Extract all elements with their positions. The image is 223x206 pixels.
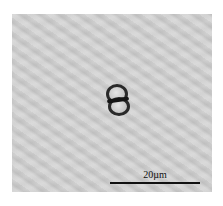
micrograph-image: 20µm [12, 14, 212, 192]
scale-bar-label: 20µm [110, 170, 200, 180]
scale-bar [110, 182, 200, 184]
